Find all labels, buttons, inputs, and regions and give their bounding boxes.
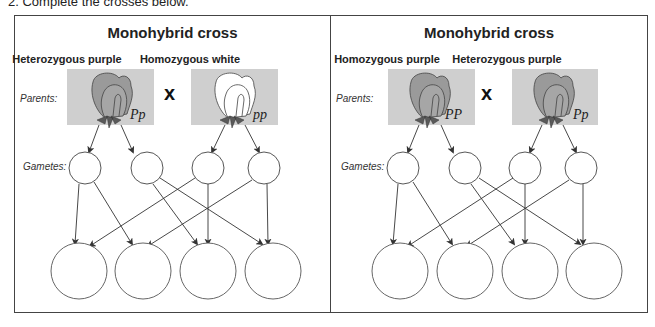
gamete-circle[interactable]	[248, 152, 280, 184]
cross-panel-1: Monohybrid cross Heterozygous purple Hom…	[14, 15, 331, 313]
cross-diagram: PP Pp	[331, 16, 649, 314]
offspring-circle[interactable]	[51, 243, 107, 299]
offspring-circle[interactable]	[566, 243, 622, 299]
parent-1-genotype: PP	[444, 107, 463, 122]
parent-1-genotype: Pp	[129, 107, 146, 122]
offspring-circle[interactable]	[502, 243, 558, 299]
gamete-circle[interactable]	[387, 152, 419, 184]
gamete-circle[interactable]	[449, 152, 481, 184]
cross-diagram: Pp pp	[15, 16, 332, 314]
offspring-circle[interactable]	[437, 243, 493, 299]
gamete-circle[interactable]	[509, 152, 541, 184]
offspring-circle[interactable]	[115, 243, 171, 299]
gamete-circle[interactable]	[131, 152, 163, 184]
parent-2-genotype: pp	[252, 107, 267, 122]
offspring-circle[interactable]	[372, 243, 428, 299]
cross-panel-2: Monohybrid cross Homozygous purple Heter…	[330, 15, 648, 313]
gamete-circle[interactable]	[192, 152, 224, 184]
gamete-circle[interactable]	[565, 152, 597, 184]
offspring-circle[interactable]	[180, 243, 236, 299]
parent-2-genotype: Pp	[572, 107, 589, 122]
instruction-text: 2. Complete the crosses below.	[8, 0, 189, 9]
offspring-circle[interactable]	[245, 243, 301, 299]
gamete-circle[interactable]	[69, 152, 101, 184]
